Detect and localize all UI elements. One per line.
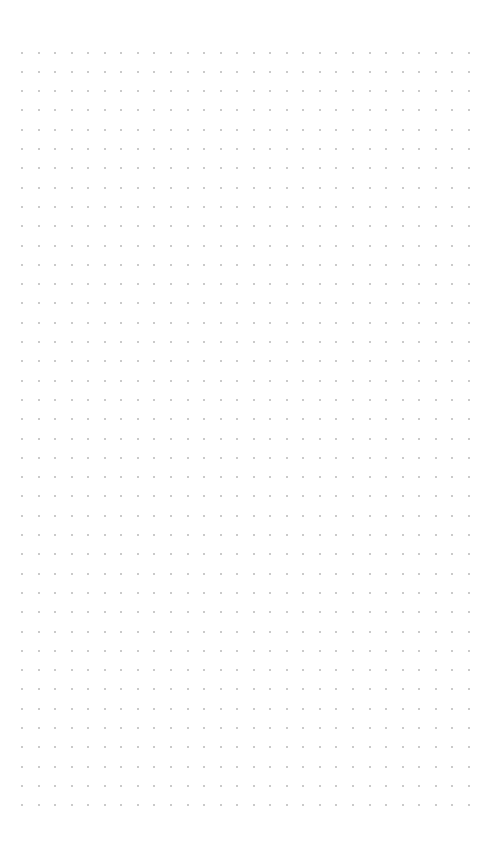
- grid-dot: [104, 90, 106, 92]
- grid-dot: [87, 167, 89, 169]
- grid-dot: [153, 573, 155, 575]
- grid-dot: [435, 109, 437, 111]
- grid-dot: [21, 457, 23, 459]
- grid-dot: [269, 322, 271, 324]
- grid-dot: [319, 322, 321, 324]
- grid-dot: [335, 109, 337, 111]
- grid-dot: [369, 245, 371, 247]
- grid-dot: [87, 727, 89, 729]
- grid-dot: [87, 592, 89, 594]
- grid-dot: [153, 187, 155, 189]
- grid-dot: [302, 688, 304, 690]
- grid-dot: [369, 187, 371, 189]
- grid-dot: [302, 225, 304, 227]
- grid-dot: [187, 438, 189, 440]
- grid-dot: [319, 399, 321, 401]
- grid-dot: [236, 90, 238, 92]
- grid-dot: [435, 380, 437, 382]
- grid-dot: [302, 766, 304, 768]
- grid-dot: [335, 148, 337, 150]
- grid-dot: [203, 418, 205, 420]
- grid-dot: [203, 534, 205, 536]
- grid-dot: [220, 785, 222, 787]
- grid-dot: [220, 52, 222, 54]
- grid-dot: [435, 495, 437, 497]
- grid-dot: [104, 167, 106, 169]
- grid-dot: [468, 476, 470, 478]
- grid-dot: [153, 167, 155, 169]
- grid-dot: [153, 438, 155, 440]
- grid-dot: [335, 187, 337, 189]
- grid-dot: [302, 399, 304, 401]
- grid-dot: [451, 669, 453, 671]
- grid-dot: [203, 708, 205, 710]
- grid-dot: [104, 650, 106, 652]
- grid-dot: [170, 495, 172, 497]
- grid-dot: [253, 167, 255, 169]
- grid-dot: [253, 52, 255, 54]
- grid-dot: [352, 592, 354, 594]
- grid-dot: [104, 129, 106, 131]
- grid-dot: [87, 206, 89, 208]
- grid-dot: [385, 708, 387, 710]
- grid-dot: [352, 495, 354, 497]
- grid-dot: [369, 727, 371, 729]
- grid-dot: [38, 245, 40, 247]
- grid-dot: [335, 360, 337, 362]
- grid-dot: [137, 264, 139, 266]
- grid-dot: [451, 418, 453, 420]
- grid-dot: [54, 341, 56, 343]
- grid-dot: [418, 380, 420, 382]
- grid-dot: [21, 534, 23, 536]
- grid-dot: [286, 515, 288, 517]
- grid-dot: [319, 592, 321, 594]
- grid-dot: [418, 399, 420, 401]
- grid-dot: [253, 360, 255, 362]
- grid-dot: [203, 380, 205, 382]
- grid-dot: [137, 804, 139, 806]
- grid-dot: [170, 476, 172, 478]
- grid-dot: [120, 360, 122, 362]
- grid-dot: [38, 380, 40, 382]
- grid-dot: [153, 264, 155, 266]
- grid-dot: [352, 380, 354, 382]
- grid-dot: [418, 688, 420, 690]
- grid-dot: [54, 148, 56, 150]
- grid-dot: [369, 476, 371, 478]
- grid-dot: [71, 688, 73, 690]
- grid-dot: [435, 302, 437, 304]
- grid-dot: [236, 766, 238, 768]
- grid-dot: [104, 708, 106, 710]
- grid-dot: [54, 688, 56, 690]
- grid-dot: [38, 727, 40, 729]
- dot-grid-canvas[interactable]: [0, 0, 498, 859]
- grid-dot: [253, 302, 255, 304]
- grid-dot: [21, 322, 23, 324]
- grid-dot: [203, 669, 205, 671]
- grid-dot: [21, 476, 23, 478]
- grid-dot: [286, 341, 288, 343]
- grid-dot: [38, 766, 40, 768]
- grid-dot: [236, 71, 238, 73]
- grid-dot: [451, 302, 453, 304]
- grid-dot: [302, 611, 304, 613]
- grid-dot: [54, 322, 56, 324]
- grid-dot: [468, 611, 470, 613]
- grid-dot: [220, 804, 222, 806]
- grid-dot: [120, 708, 122, 710]
- grid-dot: [21, 727, 23, 729]
- grid-dot: [203, 245, 205, 247]
- grid-dot: [253, 322, 255, 324]
- grid-dot: [335, 71, 337, 73]
- grid-dot: [302, 283, 304, 285]
- grid-dot: [369, 225, 371, 227]
- grid-dot: [418, 109, 420, 111]
- grid-dot: [21, 148, 23, 150]
- grid-dot: [435, 71, 437, 73]
- grid-dot: [451, 360, 453, 362]
- grid-dot: [418, 52, 420, 54]
- grid-dot: [137, 52, 139, 54]
- grid-dot: [220, 148, 222, 150]
- grid-dot: [236, 669, 238, 671]
- grid-dot: [104, 727, 106, 729]
